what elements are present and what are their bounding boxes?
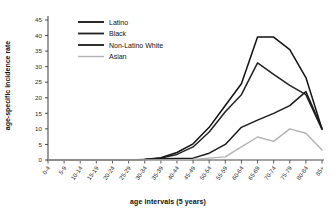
x-tick-label: 80-84	[295, 165, 309, 182]
y-tick-label: 5	[39, 141, 43, 148]
x-tick-label: 40-44	[167, 165, 181, 182]
chart-legend: LatinoBlackNon-Latino WhiteAsian	[78, 19, 163, 61]
x-tick-label: 55-59	[215, 165, 229, 182]
x-axis: 0-45-910-1415-1920-2425-2930-3435-3940-4…	[41, 160, 325, 181]
x-tick-label: 75-79	[279, 165, 293, 182]
series-line	[48, 63, 322, 160]
x-tick-label: 5-9	[58, 165, 68, 176]
x-tick-label: 30-34	[134, 165, 148, 182]
x-tick-label: 65-69	[247, 165, 261, 182]
y-tick-label: 15	[35, 110, 42, 117]
y-tick-label: 40	[35, 32, 42, 39]
x-tick-label: 25-29	[118, 165, 132, 182]
x-tick-label: 60-64	[231, 165, 245, 182]
data-series-group	[48, 37, 322, 160]
x-tick-label: 10-14	[70, 165, 84, 182]
y-tick-label: 0	[39, 156, 43, 163]
y-tick-label: 45	[35, 16, 42, 23]
y-tick-label: 20	[35, 94, 42, 101]
x-axis-title: age intervals (5 years)	[0, 198, 336, 205]
y-tick-label: 25	[35, 78, 42, 85]
x-tick-label: 70-74	[263, 165, 277, 182]
chart-container: age-specific incidence rate 051015202530…	[0, 0, 336, 218]
x-tick-label: 45-49	[183, 165, 197, 182]
y-tick-label: 30	[35, 63, 42, 70]
series-line	[48, 37, 322, 160]
x-tick-label: 20-24	[102, 165, 116, 182]
chart-plot-area: 051015202530354045 0-45-910-1415-1920-24…	[0, 0, 336, 218]
y-tick-label: 10	[35, 125, 42, 132]
x-tick-label: 85+	[315, 165, 326, 177]
series-line	[48, 92, 322, 160]
series-line	[48, 129, 322, 160]
y-axis: 051015202530354045	[35, 16, 48, 163]
legend-label: Black	[109, 30, 127, 37]
y-tick-label: 35	[35, 47, 42, 54]
x-tick-label: 35-39	[150, 165, 164, 182]
legend-label: Asian	[109, 53, 127, 60]
x-tick-label: 50-54	[199, 165, 213, 182]
legend-label: Non-Latino White	[109, 42, 163, 49]
x-tick-label: 0-4	[41, 165, 51, 176]
legend-label: Latino	[109, 19, 128, 26]
x-tick-label: 15-19	[86, 165, 100, 182]
